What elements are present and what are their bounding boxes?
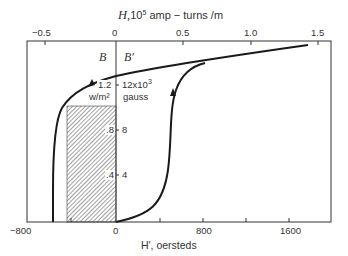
b-prime-value-8: 8 [122, 125, 127, 135]
top-tick-label: 0.5 [176, 28, 189, 38]
b-prime-exponent: 3 [148, 78, 152, 85]
bottom-tick-label: 0 [113, 226, 118, 236]
b-prime-units: gauss [123, 92, 148, 102]
top-tick-label: 1.5 [311, 28, 324, 38]
top-axis-ticks [45, 41, 318, 45]
b-value-0-8: .8 [105, 125, 115, 135]
b-units: w/m² [88, 92, 111, 102]
bottom-tick-label: 800 [196, 226, 212, 236]
top-axis-mantissa: 10 [130, 9, 142, 21]
b-prime-value-12: 12x103 [122, 80, 152, 90]
b-header: B [99, 51, 106, 63]
top-axis-title: H,105 amp − turns /m [118, 9, 223, 22]
top-axis-exponent: 5 [142, 9, 146, 16]
hysteresis-diagram [0, 0, 348, 256]
b-prime-value-4: 4 [122, 170, 127, 180]
top-tick-label: −0.5 [32, 28, 51, 38]
top-axis-units: amp − turns /m [149, 9, 223, 21]
bottom-axis-title: H′, oersteds [141, 240, 197, 251]
bottom-tick-label: −800 [10, 226, 31, 236]
b-prime-header: B′ [124, 51, 134, 63]
top-axis-symbol: H, [118, 8, 130, 22]
top-tick-label: 1.0 [244, 28, 257, 38]
b-value-1-2: 1.2 [97, 80, 112, 90]
arrow-up-icon [88, 79, 95, 87]
top-tick-label: 0 [112, 28, 117, 38]
b-prime-mantissa: 12x10 [122, 79, 148, 90]
b-value-0-4: .4 [105, 170, 115, 180]
bottom-tick-label: 1600 [280, 226, 301, 236]
